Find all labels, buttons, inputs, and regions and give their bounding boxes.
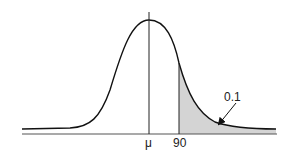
cutoff-label: 90 <box>173 136 187 150</box>
annotation-arrow <box>219 103 236 124</box>
mu-label: μ <box>145 136 152 150</box>
tail-probability-label: 0.1 <box>224 90 241 104</box>
normal-distribution-diagram: μ 90 0.1 <box>0 0 293 157</box>
